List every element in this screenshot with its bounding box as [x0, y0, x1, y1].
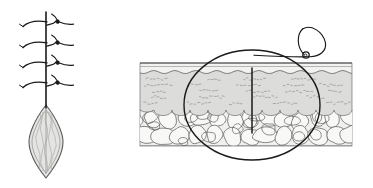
surgical-illustration-svg [0, 0, 373, 188]
figure-root [0, 0, 373, 188]
